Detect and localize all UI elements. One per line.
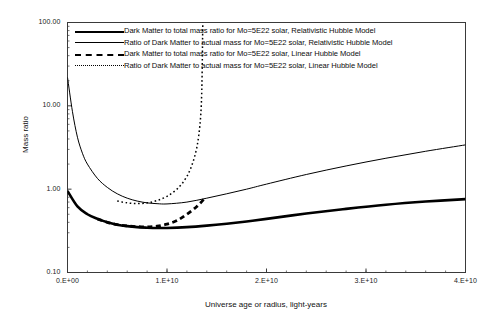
legend-item-label: Dark Matter to total mass ratio for Mo=5… xyxy=(124,49,360,58)
legend-item-label: Ratio of Dark Matter to actual mass for … xyxy=(124,61,378,70)
legend-line-sample-icon xyxy=(72,37,124,48)
y-axis-title: Mass ratio xyxy=(21,90,30,180)
x-tick-label: 4.E+10 xyxy=(442,277,490,284)
x-tick-label: 2.E+10 xyxy=(243,277,291,284)
legend-item-label: Ratio of Dark Matter to actual mass for … xyxy=(124,38,392,47)
chart-legend: Dark Matter to total mass ratio for Mo=5… xyxy=(72,25,464,71)
x-axis-title: Universe age or radius, light-years xyxy=(67,300,465,309)
legend-line-sample-icon xyxy=(72,60,124,71)
legend-line-glyph xyxy=(75,42,124,43)
legend-line-glyph xyxy=(75,65,124,66)
legend-item[interactable]: Dark Matter to total mass ratio for Mo=5… xyxy=(72,48,464,60)
y-tick-label: 100.00 xyxy=(0,18,61,25)
legend-line-glyph xyxy=(75,54,124,56)
y-tick-label: 10.00 xyxy=(0,101,61,108)
legend-line-glyph xyxy=(75,31,124,33)
x-tick-label: 0.E+00 xyxy=(44,277,92,284)
legend-item[interactable]: Dark Matter to total mass ratio for Mo=5… xyxy=(72,25,464,37)
legend-line-sample-icon xyxy=(72,25,124,36)
x-tick-label: 3.E+10 xyxy=(342,277,390,284)
y-tick-label: 1.00 xyxy=(0,185,61,192)
legend-item-label: Dark Matter to total mass ratio for Mo=5… xyxy=(124,26,375,35)
x-tick-label: 1.E+10 xyxy=(143,277,191,284)
legend-line-sample-icon xyxy=(72,48,124,59)
legend-item[interactable]: Ratio of Dark Matter to actual mass for … xyxy=(72,37,464,49)
y-tick-label: 0.10 xyxy=(0,268,61,275)
chart-container: 100.0010.001.000.10 0.E+001.E+102.E+103.… xyxy=(0,0,498,325)
legend-item[interactable]: Ratio of Dark Matter to actual mass for … xyxy=(72,60,464,72)
